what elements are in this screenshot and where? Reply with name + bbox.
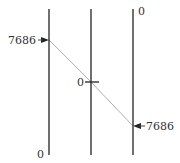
- axis-1-marker-label: 7686: [8, 34, 36, 47]
- axis-1-bottom-label: 0: [37, 148, 44, 161]
- parallel-coordinates-chart: 7686 0 0 0 7686: [0, 0, 180, 163]
- axis-3-marker-label: 7686: [146, 120, 174, 133]
- axis-2-marker-label: 0: [77, 76, 84, 89]
- axis-3-top-label: 0: [138, 5, 145, 18]
